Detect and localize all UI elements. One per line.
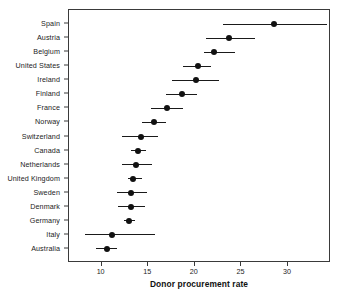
data-point-marker xyxy=(151,119,157,125)
x-axis-tick-mark xyxy=(147,262,148,266)
data-point-marker xyxy=(138,134,144,140)
y-axis-tick-label: Sweden xyxy=(33,187,60,196)
data-point-marker xyxy=(211,49,217,55)
y-axis-tick-label: Switzerland xyxy=(22,131,60,140)
confidence-interval-line xyxy=(85,234,155,235)
data-point-marker xyxy=(193,77,199,83)
x-axis-tick-mark xyxy=(287,262,288,266)
y-axis-tick-label: Norway xyxy=(35,117,60,126)
confidence-interval-line xyxy=(204,52,235,53)
data-point-marker xyxy=(179,91,185,97)
x-axis-tick-label: 15 xyxy=(143,267,151,276)
x-axis-title: Donor procurement rate xyxy=(68,279,330,289)
y-axis-tick-label: Finland xyxy=(36,89,60,98)
data-point-marker xyxy=(126,218,132,224)
y-axis-tick-label: France xyxy=(37,103,60,112)
y-axis-tick-label: Australia xyxy=(31,243,60,252)
y-axis-tick-label: Italy xyxy=(46,229,60,238)
data-point-marker xyxy=(226,35,232,41)
y-axis-tick-label: Germany xyxy=(30,215,60,224)
y-axis-tick-label: United States xyxy=(16,61,60,70)
data-point-marker xyxy=(133,162,139,168)
data-point-marker xyxy=(271,21,277,27)
y-axis-category-labels: SpainAustriaBelgiumUnited StatesIrelandF… xyxy=(0,9,68,262)
y-axis-tick-label: United Kingdom xyxy=(7,173,60,182)
data-point-marker xyxy=(109,232,115,238)
y-axis-tick-label: Netherlands xyxy=(20,159,60,168)
y-axis-tick-label: Austria xyxy=(37,33,60,42)
y-axis-tick-label: Spain xyxy=(41,19,60,28)
data-point-marker xyxy=(128,204,134,210)
x-axis-tick-label: 10 xyxy=(97,267,105,276)
plot-area xyxy=(68,9,330,262)
y-axis-tick-label: Ireland xyxy=(37,75,60,84)
donor-procurement-rate-chart: SpainAustriaBelgiumUnited StatesIrelandF… xyxy=(0,0,339,298)
x-axis-tick-label: 30 xyxy=(283,267,291,276)
data-point-marker xyxy=(128,190,134,196)
data-point-marker xyxy=(130,176,136,182)
y-axis-tick-label: Denmark xyxy=(30,201,60,210)
x-axis-tick-label: 25 xyxy=(236,267,244,276)
data-point-marker xyxy=(104,246,110,252)
x-axis-tick-mark xyxy=(194,262,195,266)
y-axis-tick-label: Canada xyxy=(34,145,60,154)
x-axis-tick-label: 20 xyxy=(190,267,198,276)
data-point-marker xyxy=(164,105,170,111)
x-axis-tick-mark xyxy=(101,262,102,266)
y-axis-tick-label: Belgium xyxy=(33,47,60,56)
data-point-marker xyxy=(135,148,141,154)
x-axis-tick-mark xyxy=(240,262,241,266)
data-point-marker xyxy=(195,63,201,69)
